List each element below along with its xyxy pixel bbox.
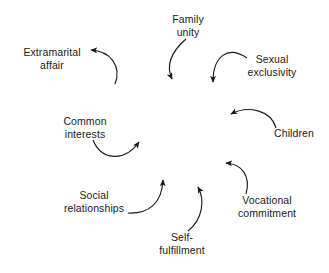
arrow-children-to-center bbox=[231, 110, 276, 128]
node-extramarital-affair: Extramarital affair bbox=[23, 46, 80, 71]
node-vocational-commitment: Vocational commitment bbox=[238, 194, 296, 219]
node-children: Children bbox=[274, 127, 314, 140]
node-family-unity: Family unity bbox=[172, 13, 204, 38]
arrow-self-fulfillment-to-vocational bbox=[188, 187, 202, 231]
arrow-sexual-exclusivity-to-center bbox=[213, 53, 247, 82]
node-self-fulfillment: Self- fulfillment bbox=[159, 231, 204, 256]
arrow-common-interests-to-social bbox=[93, 140, 139, 156]
cycle-diagram: Family unity Sexual exclusivity Children… bbox=[0, 0, 329, 273]
node-social-relationships: Social relationships bbox=[64, 189, 124, 214]
node-common-interests: Common interests bbox=[63, 115, 106, 140]
node-sexual-exclusivity: Sexual exclusivity bbox=[248, 53, 297, 78]
arrow-social-relationships-to-center bbox=[128, 180, 163, 213]
arrow-vocational-to-children bbox=[226, 163, 247, 194]
arrow-center-to-extramarital-affair bbox=[91, 50, 117, 84]
arrow-family-unity-to-center bbox=[170, 39, 186, 79]
